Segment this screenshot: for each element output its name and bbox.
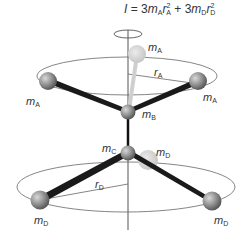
atom-mA-left (39, 72, 57, 90)
bond-B-A-left (47, 78, 130, 114)
label-rD: rD (95, 179, 104, 191)
label-mB: mB (142, 109, 156, 121)
moment-of-inertia-formula: I = 3mAr2A + 3mDr2D (124, 2, 215, 16)
atom-mA-top (128, 45, 146, 63)
bond-back-A (129, 55, 137, 110)
label-rA: rA (154, 67, 162, 79)
label-mA-left: mA (26, 96, 40, 108)
label-mA-top: mA (148, 42, 162, 54)
label-mD-back: mD (156, 147, 170, 159)
label-mC: mC (102, 143, 116, 155)
label-mD-right: mD (214, 215, 228, 227)
atom-mC (121, 146, 136, 161)
atom-mB (121, 105, 136, 120)
lower-orbit (17, 162, 235, 212)
atom-mD-left (31, 191, 50, 210)
label-mD-left: mD (34, 215, 48, 227)
atom-mA-right (189, 72, 207, 90)
atom-mD-right (203, 192, 222, 211)
bond-C-D-left (38, 150, 130, 203)
molecule-diagram (0, 0, 249, 242)
label-mA-right: mA (203, 92, 217, 104)
bond-B-A-right (128, 79, 199, 113)
